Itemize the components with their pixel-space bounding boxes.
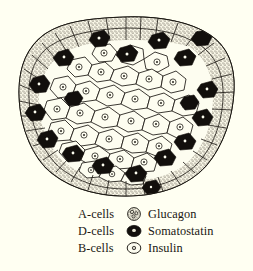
legend-hormone-label-somatostatin: Somatostatin — [148, 224, 213, 239]
islet-body — [19, 17, 234, 196]
legend-cell-label-b: B-cells — [78, 241, 114, 256]
islet-diagram-page: A-cells Glucagon D-cells Somatostatin — [0, 0, 253, 271]
open-circle-dot-icon — [124, 240, 144, 256]
legend: A-cells Glucagon D-cells Somatostatin — [0, 206, 253, 266]
legend-hormone-label-insulin: Insulin — [148, 241, 183, 256]
legend-hormone-label-glucagon: Glucagon — [148, 207, 197, 222]
legend-cell-label-a: A-cells — [78, 207, 114, 222]
islet-of-langerhans-figure — [0, 0, 253, 205]
legend-row: D-cells Somatostatin — [0, 223, 253, 240]
solid-black-oval-icon — [124, 223, 144, 239]
legend-cell-label-d: D-cells — [78, 224, 114, 239]
legend-row: B-cells Insulin — [0, 240, 253, 257]
legend-row: A-cells Glucagon — [0, 206, 253, 223]
stippled-circle-icon — [124, 206, 144, 222]
